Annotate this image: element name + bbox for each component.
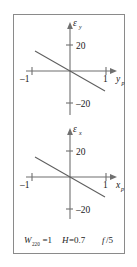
x-tick-label-neg1-top: –1 [19, 74, 30, 84]
caption-row: W 220 =1 H =0.7 f /5 [14, 227, 126, 254]
x-axis-label-top: y [115, 74, 121, 84]
aberration-coefficient-subscript: 220 [32, 241, 40, 247]
plot-tangential-ray-fan: 20 –20 –1 1 ε y y p [14, 15, 126, 123]
fnumber-value: /5 [106, 235, 114, 245]
y-tick-label-neg20-top: –20 [75, 99, 91, 109]
x-axis-label-sub-top: p [121, 80, 125, 86]
caption-canvas: W 220 =1 H =0.7 f /5 [14, 227, 126, 254]
plot-sagittal-ray-fan: 20 –20 –1 1 ε x x p [14, 123, 126, 227]
aberration-coefficient-value: =1 [43, 235, 53, 245]
x-tick-label-pos1-bottom: 1 [103, 180, 108, 190]
y-axis-label-top: ε [73, 18, 77, 28]
field-height-value: =0.7 [69, 235, 86, 245]
field-height-symbol: H [61, 235, 69, 245]
x-tick-label-neg1-bottom: –1 [19, 180, 30, 190]
plot-top-canvas: 20 –20 –1 1 ε y y p [14, 15, 126, 123]
plot-bottom-canvas: 20 –20 –1 1 ε x x p [14, 123, 126, 227]
aberration-figure: 20 –20 –1 1 ε y y p [0, 0, 137, 267]
x-axis-label-sub-bottom: p [120, 186, 124, 192]
y-axis-label-sub-bottom: x [78, 130, 82, 136]
y-tick-label-pos20-bottom: 20 [76, 147, 86, 157]
figure-frame: 20 –20 –1 1 ε y y p [13, 14, 125, 254]
y-tick-label-pos20-top: 20 [76, 41, 86, 51]
y-axis-label-bottom: ε [73, 124, 77, 134]
y-axis-label-sub-top: y [78, 24, 82, 30]
x-tick-label-pos1-top: 1 [103, 74, 108, 84]
y-tick-label-neg20-bottom: –20 [75, 205, 91, 215]
